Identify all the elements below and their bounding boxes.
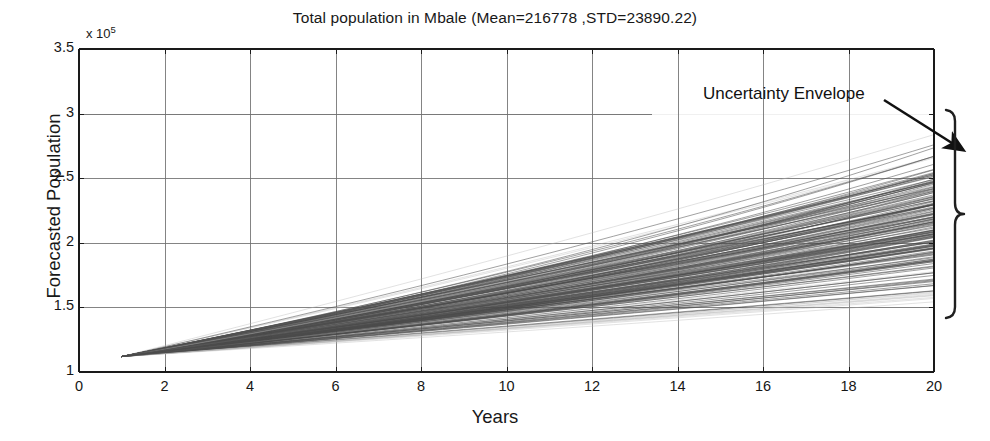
x-tick-label: 4 — [230, 378, 270, 394]
y-tick-label: 2.5 — [34, 168, 74, 184]
y-tick-label: 2 — [34, 233, 74, 249]
y-tick-label: 3 — [34, 104, 74, 120]
chart-canvas — [0, 0, 990, 441]
x-tick-label: 8 — [401, 378, 441, 394]
x-tick-label: 0 — [59, 378, 99, 394]
chart-title: Total population in Mbale (Mean=216778 ,… — [0, 9, 990, 27]
x-tick-label: 10 — [487, 378, 527, 394]
y-tick-label: 1.5 — [34, 297, 74, 313]
x-tick-label: 14 — [658, 378, 698, 394]
x-tick-label: 16 — [743, 378, 783, 394]
y-axis-tick-labels: 11.522.533.5 — [30, 0, 74, 441]
y-axis-exponent-power: 5 — [111, 24, 116, 35]
y-axis-exponent-mantissa: x 10 — [86, 26, 111, 41]
x-tick-label: 6 — [316, 378, 356, 394]
x-tick-label: 18 — [829, 378, 869, 394]
uncertainty-envelope-label: Uncertainty Envelope — [703, 84, 865, 104]
chart-figure: Total population in Mbale (Mean=216778 ,… — [0, 0, 990, 441]
y-tick-label: 1 — [34, 362, 74, 378]
x-tick-label: 20 — [914, 378, 954, 394]
x-tick-label: 12 — [572, 378, 612, 394]
x-tick-label: 2 — [145, 378, 185, 394]
y-tick-label: 3.5 — [34, 39, 74, 55]
y-axis-exponent: x 105 — [86, 24, 116, 41]
x-axis-label: Years — [0, 406, 990, 428]
